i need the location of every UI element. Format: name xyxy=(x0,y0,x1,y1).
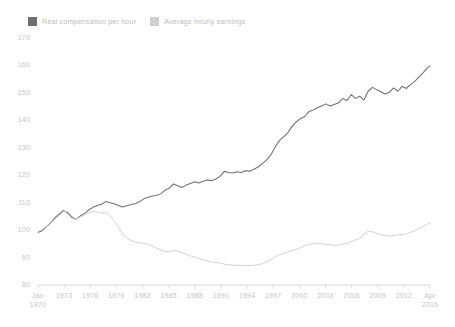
x-axis-tick-label-line2: 2016 xyxy=(410,301,450,310)
y-axis-tick-label: 170 xyxy=(8,34,30,42)
series-line-real-compensation xyxy=(38,66,430,232)
y-axis-tick-label: 120 xyxy=(8,171,30,179)
y-axis-tick-label: 80 xyxy=(8,281,30,289)
y-axis-tick-label: 110 xyxy=(8,199,30,207)
x-axis-tick-label: Apr2016 xyxy=(410,292,450,309)
y-axis-tick-label: 100 xyxy=(8,226,30,234)
y-axis-tick-label: 90 xyxy=(8,254,30,262)
chart-plot-area xyxy=(0,0,455,327)
x-axis-tick-label-line2: 1970 xyxy=(18,301,58,310)
chart-axes xyxy=(38,285,430,289)
y-axis-tick-label: 130 xyxy=(8,144,30,152)
chart-series-layer xyxy=(38,66,430,266)
chart-container: Real compensation per hour Average hourl… xyxy=(0,0,455,327)
x-axis-tick-label-line1: Apr xyxy=(410,292,450,301)
series-line-average-hourly-earnings xyxy=(38,211,430,265)
y-axis-tick-label: 150 xyxy=(8,89,30,97)
y-axis-tick-label: 160 xyxy=(8,61,30,69)
y-axis-tick-label: 140 xyxy=(8,116,30,124)
